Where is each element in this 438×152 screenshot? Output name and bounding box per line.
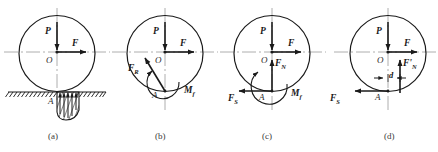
center-dot-d xyxy=(386,50,389,53)
force-label-FS-c-sub: S xyxy=(234,98,238,105)
center-label-d: O xyxy=(377,55,384,65)
force-label-FN-prime-d-main: F' xyxy=(403,58,412,68)
panel-caption-d: (d) xyxy=(384,131,395,141)
panel-b xyxy=(112,8,218,112)
panel-d xyxy=(334,8,436,112)
force-label-FS-d: FS xyxy=(330,93,340,105)
center-label-a: O xyxy=(46,55,53,65)
center-dot-b xyxy=(163,50,166,53)
contact-label-d: A xyxy=(375,92,381,102)
panel-caption-b: (b) xyxy=(155,131,166,141)
force-label-P-d: P xyxy=(376,26,382,36)
force-label-P-a: P xyxy=(45,26,51,36)
contact-label-a: A xyxy=(48,96,54,106)
moment-label-Mf-b-sub: f xyxy=(192,90,194,97)
dimension-label-d: d xyxy=(389,70,393,80)
contact-dot-d xyxy=(387,90,390,93)
figure-canvas xyxy=(0,0,438,152)
force-label-F-a: F xyxy=(72,38,78,48)
moment-label-Mf-c: Mf xyxy=(291,88,302,100)
force-label-FN-prime-d-sub: N xyxy=(412,63,417,70)
force-label-P-c: P xyxy=(260,26,266,36)
contact-dot-b xyxy=(164,90,167,93)
ground-hatching-a xyxy=(6,92,107,97)
force-label-FN-prime-d: F'N xyxy=(403,58,417,70)
force-label-FS-c: FS xyxy=(228,93,238,105)
force-label-FN-c: FN xyxy=(275,58,286,70)
force-label-FR-b-sub: R xyxy=(134,68,138,75)
contact-label-c: A xyxy=(259,92,265,102)
center-dot-a xyxy=(55,50,58,53)
contact-dot-c xyxy=(271,90,274,93)
force-label-FR-b: FR xyxy=(128,63,139,75)
center-label-b: O xyxy=(155,55,162,65)
center-label-c: O xyxy=(261,55,268,65)
force-label-P-b: P xyxy=(153,26,159,36)
panel-caption-a: (a) xyxy=(48,131,58,141)
contact-label-b: A xyxy=(152,90,158,100)
force-label-F-d: F xyxy=(404,38,410,48)
panel-caption-c: (c) xyxy=(262,131,272,141)
force-label-F-b: F xyxy=(180,38,186,48)
moment-label-Mf-c-sub: f xyxy=(299,93,301,100)
moment-label-Mf-b: Mf xyxy=(184,85,195,97)
figure-rolling-resistance: P F O A (a) P F FR O A Mf (b) P F FN FS … xyxy=(0,0,438,152)
center-dot-c xyxy=(270,50,273,53)
force-label-F-c: F xyxy=(288,38,294,48)
force-label-FN-c-sub: N xyxy=(281,63,286,70)
panel-a xyxy=(4,8,110,120)
force-label-FS-d-sub: S xyxy=(336,98,340,105)
